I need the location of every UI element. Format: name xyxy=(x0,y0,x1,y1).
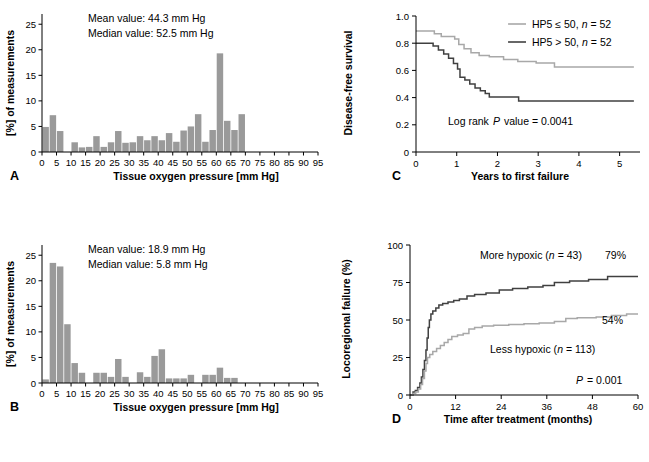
svg-text:0: 0 xyxy=(398,390,403,401)
svg-text:0: 0 xyxy=(31,147,36,158)
svg-text:0.4: 0.4 xyxy=(396,92,409,103)
svg-text:50: 50 xyxy=(182,157,193,168)
svg-text:45: 45 xyxy=(167,157,178,168)
svg-text:60: 60 xyxy=(211,388,222,399)
svg-text:20: 20 xyxy=(95,388,106,399)
svg-text:25: 25 xyxy=(109,388,120,399)
svg-text:0: 0 xyxy=(413,158,418,169)
panel-d-pvalue-annotation: P= 0.001 xyxy=(576,374,623,386)
panel-b-chart: 0510152025303540455055606570758085909505… xyxy=(0,231,330,462)
panel-b: 0510152025303540455055606570758085909505… xyxy=(0,231,330,462)
svg-text:10: 10 xyxy=(66,157,77,168)
panel-d-xlabel: Time after treatment (months) xyxy=(444,413,593,425)
panel-c-chart: 01234500.20.40.60.81.0 HP5 ≤ 50,n= 52 HP… xyxy=(330,0,649,231)
panel-c-axes: 01234500.20.40.60.81.0 xyxy=(396,11,640,170)
svg-text:5: 5 xyxy=(617,158,622,169)
svg-text:90: 90 xyxy=(298,157,309,168)
svg-text:45: 45 xyxy=(167,388,178,399)
panel-d: 012243648600255075100 More hypoxic (n= 4… xyxy=(330,231,649,462)
svg-text:36: 36 xyxy=(542,401,553,412)
svg-text:100: 100 xyxy=(387,240,403,251)
panel-c-letter: C xyxy=(392,169,401,183)
svg-text:5: 5 xyxy=(31,121,36,132)
svg-text:0.8: 0.8 xyxy=(396,38,409,49)
panel-c-ylabel: Disease-free survival xyxy=(342,30,354,135)
svg-text:5: 5 xyxy=(31,352,36,363)
svg-text:25: 25 xyxy=(109,157,120,168)
svg-text:0: 0 xyxy=(407,401,412,412)
svg-text:55: 55 xyxy=(197,157,208,168)
svg-text:2: 2 xyxy=(495,158,500,169)
panel-b-median-annotation: Median value: 5.8 mm Hg xyxy=(88,258,208,270)
panel-a-median-annotation: Median value: 52.5 mm Hg xyxy=(88,27,214,39)
svg-text:1: 1 xyxy=(454,158,459,169)
panel-d-label-more-hypoxic: More hypoxic (n= 43) xyxy=(480,249,582,261)
legend-label-hp5-le50: HP5 ≤ 50,n= 52 xyxy=(532,18,611,30)
panel-c-logrank-annotation: Log rankPvalue = 0.0041 xyxy=(448,115,573,127)
svg-text:15: 15 xyxy=(25,301,36,312)
svg-text:80: 80 xyxy=(269,388,280,399)
svg-text:4: 4 xyxy=(576,158,581,169)
panel-a-bars xyxy=(42,53,245,152)
svg-text:1.0: 1.0 xyxy=(396,11,409,22)
svg-text:60: 60 xyxy=(211,157,222,168)
svg-text:0.2: 0.2 xyxy=(396,119,409,130)
svg-text:35: 35 xyxy=(138,157,149,168)
svg-text:40: 40 xyxy=(153,157,164,168)
svg-text:50: 50 xyxy=(392,315,403,326)
svg-text:25: 25 xyxy=(392,352,403,363)
svg-text:20: 20 xyxy=(95,157,106,168)
svg-text:55: 55 xyxy=(197,388,208,399)
svg-text:80: 80 xyxy=(269,157,280,168)
panel-d-label-less-hypoxic: Less hypoxic (n= 113) xyxy=(490,343,595,355)
svg-text:0: 0 xyxy=(39,388,44,399)
svg-text:70: 70 xyxy=(240,388,251,399)
svg-text:24: 24 xyxy=(496,401,507,412)
svg-text:15: 15 xyxy=(80,388,91,399)
panel-b-xlabel: Tissue oxygen pressure [mm Hg] xyxy=(113,401,279,413)
panel-c-legend: HP5 ≤ 50,n= 52 HP5 > 50,n= 52 xyxy=(508,18,612,48)
panel-c-xlabel: Years to first failure xyxy=(471,170,569,182)
panel-b-bars xyxy=(42,263,237,383)
svg-text:40: 40 xyxy=(153,388,164,399)
svg-text:15: 15 xyxy=(25,70,36,81)
panel-a-letter: A xyxy=(10,169,19,183)
panel-a-chart: 0510152025303540455055606570758085909505… xyxy=(0,0,330,231)
svg-text:10: 10 xyxy=(25,326,36,337)
panel-b-letter: B xyxy=(10,400,19,414)
svg-text:85: 85 xyxy=(284,388,295,399)
panel-d-ylabel: Locoregional failure (%) xyxy=(340,259,352,379)
svg-text:85: 85 xyxy=(284,157,295,168)
svg-text:10: 10 xyxy=(25,95,36,106)
panel-c: 01234500.20.40.60.81.0 HP5 ≤ 50,n= 52 HP… xyxy=(330,0,649,231)
panel-a-ylabel: [%] of measurements xyxy=(4,30,16,136)
panel-d-endpoint-more-hypoxic: 79% xyxy=(605,249,626,261)
svg-text:0: 0 xyxy=(404,147,409,158)
svg-text:90: 90 xyxy=(298,388,309,399)
svg-text:50: 50 xyxy=(182,388,193,399)
svg-text:0: 0 xyxy=(39,157,44,168)
svg-text:70: 70 xyxy=(240,157,251,168)
panel-b-ylabel: [%] of measurements xyxy=(4,261,16,367)
svg-text:20: 20 xyxy=(25,44,36,55)
svg-text:20: 20 xyxy=(25,275,36,286)
svg-text:48: 48 xyxy=(587,401,598,412)
svg-text:75: 75 xyxy=(392,277,403,288)
svg-text:65: 65 xyxy=(226,157,237,168)
svg-text:95: 95 xyxy=(313,388,324,399)
svg-text:35: 35 xyxy=(138,388,149,399)
panel-d-letter: D xyxy=(392,412,401,426)
svg-text:5: 5 xyxy=(54,388,59,399)
svg-text:10: 10 xyxy=(66,388,77,399)
svg-text:25: 25 xyxy=(25,250,36,261)
svg-text:12: 12 xyxy=(450,401,461,412)
svg-text:75: 75 xyxy=(255,157,266,168)
panel-a-mean-annotation: Mean value: 44.3 mm Hg xyxy=(88,12,205,24)
panel-d-endpoint-less-hypoxic: 54% xyxy=(602,314,623,326)
panel-d-chart: 012243648600255075100 More hypoxic (n= 4… xyxy=(330,231,649,462)
svg-text:60: 60 xyxy=(633,401,644,412)
svg-text:25: 25 xyxy=(25,19,36,30)
svg-text:95: 95 xyxy=(313,157,324,168)
svg-text:30: 30 xyxy=(124,157,135,168)
svg-text:30: 30 xyxy=(124,388,135,399)
